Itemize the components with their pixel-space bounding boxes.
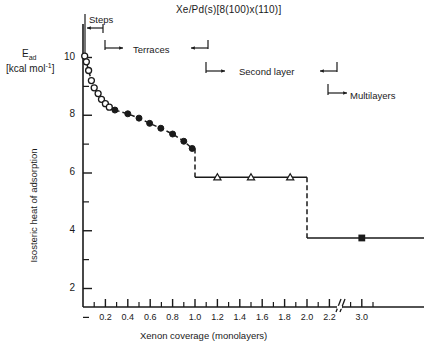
data-point-open-circle <box>91 85 97 91</box>
arrow-second-layer-right-head <box>221 69 225 72</box>
y-tick-label: 6 <box>55 166 75 177</box>
y-tick-label: 10 <box>55 51 75 62</box>
data-point-filled-circle <box>112 107 118 113</box>
arrow-steps-left-head <box>87 26 91 29</box>
data-point-open-circle <box>88 78 94 84</box>
figure-container: Xe/Pd(s)[8(100)x(110)] Isosteric heat of… <box>0 0 427 347</box>
arrow-multilayers-right-head <box>343 91 347 94</box>
data-point-filled-square <box>358 235 365 242</box>
x-tick-label: 3.0 <box>349 312 375 322</box>
data-point-filled-circle <box>189 145 195 151</box>
axis-break-gap <box>337 306 342 309</box>
y-tick-label: 8 <box>55 108 75 119</box>
data-point-filled-circle <box>125 111 131 117</box>
data-point-filled-circle <box>181 138 187 144</box>
x-tick-label: 2.2 <box>316 312 342 322</box>
data-point-open-circle <box>82 53 88 59</box>
data-point-open-circle <box>106 104 112 110</box>
y-tick-label: 4 <box>55 224 75 235</box>
data-point-open-circle <box>95 91 101 97</box>
data-point-filled-circle <box>170 131 176 137</box>
arrow-second-layer-left-head <box>320 69 324 72</box>
data-point-filled-circle <box>158 125 164 131</box>
data-point-filled-circle <box>136 115 142 121</box>
arrow-terraces-right-head <box>119 46 123 49</box>
data-point-filled-circle <box>147 120 153 126</box>
y-tick-label: 2 <box>55 282 75 293</box>
arrow-terraces-left-head <box>191 46 195 49</box>
data-point-open-circle <box>83 59 89 65</box>
data-point-open-circle <box>86 67 92 73</box>
